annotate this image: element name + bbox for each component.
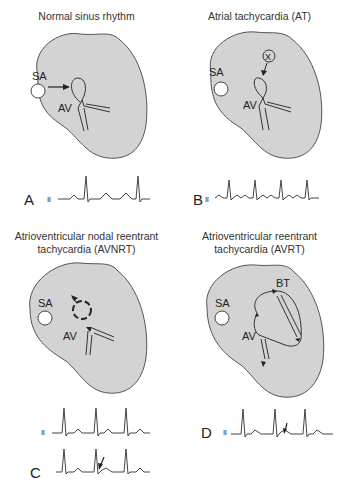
panel-avrt: Atrioventricular reentrant tachycardia (… [173,243,346,486]
heart-diagram: BT SA AV [173,243,346,486]
panel-letter: C [30,464,41,481]
panel-title-line-1: Atrioventricular nodal reentrant [0,230,173,243]
ecg-trace [215,180,319,200]
lead-label: II [41,428,44,437]
panel-avnrt: Atrioventricular nodal reentrant tachyca… [0,243,173,486]
sa-node-icon [31,84,45,98]
svg-text:BT: BT [276,277,290,289]
svg-text:AV: AV [242,330,257,342]
ecg-trace [231,409,333,437]
svg-text:AV: AV [63,330,78,342]
heart-diagram: SA AV [0,243,173,486]
svg-text:SA: SA [32,70,47,82]
panel-title-line-1: Atrioventricular reentrant [173,230,346,243]
svg-text:AV: AV [58,102,73,114]
panel-letter: A [24,191,34,208]
svg-text:AV: AV [243,99,258,111]
panel-letter: D [201,424,212,441]
ecg-trace [58,176,150,202]
ecg-trace-bottom [56,449,150,474]
sa-node-icon [215,311,229,325]
panel-letter: B [193,191,203,208]
svg-text:X: X [265,52,271,62]
ecg-trace-top [52,408,150,436]
svg-text:SA: SA [209,66,224,78]
sa-node-icon [38,311,52,325]
sa-node-icon [214,82,228,96]
lead-label: II [47,195,50,204]
svg-text:SA: SA [38,297,53,309]
lead-label: II [223,428,226,437]
svg-text:SA: SA [215,297,230,309]
panel-atrial-tachycardia: Atrial tachycardia (AT) X SA AV B II [173,0,346,243]
panel-normal-sinus-rhythm: Normal sinus rhythm SA AV A II [0,0,173,243]
lead-label: II [205,195,208,204]
